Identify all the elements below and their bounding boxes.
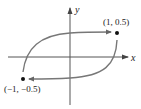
point-marker-1-0.5 (115, 31, 119, 35)
curve-upper-arc (23, 32, 111, 72)
point-label-1-0.5: (1, 0.5) (103, 17, 129, 27)
point-marker-neg1-neg0.5 (21, 77, 25, 81)
y-axis-label: y (74, 4, 80, 15)
x-axis-label: x (130, 52, 136, 63)
curve-lower-arc (29, 40, 117, 79)
point-label-neg1-neg0.5: (−1, −0.5) (4, 84, 40, 94)
parametric-curve-diagram: x y (1, 0.5) (−1, −0.5) (0, 0, 141, 109)
